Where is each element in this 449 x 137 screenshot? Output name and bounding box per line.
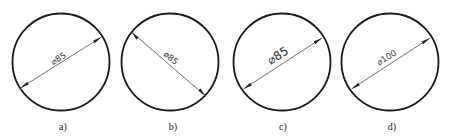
- diameter-dimension-line: [132, 32, 206, 96]
- arrowhead-icon: [352, 83, 360, 89]
- arrowhead-icon: [422, 38, 430, 44]
- figure-c: ⌀85 c): [234, 14, 331, 134]
- dimension-text: ⌀85: [162, 49, 181, 67]
- figure-b: ⌀85 b): [122, 14, 219, 134]
- arrowhead-icon: [21, 82, 29, 88]
- arrowhead-icon: [244, 83, 252, 89]
- dimension-text: ⌀85: [265, 44, 291, 68]
- circle-outline: [234, 14, 331, 111]
- diameter-dimension-diagram: ⌀85 a) ⌀85 b) ⌀85 c) ⌀100 d): [0, 0, 449, 137]
- figure-label: c): [279, 121, 287, 133]
- arrowhead-icon: [199, 88, 206, 96]
- dimension-text: ⌀100: [375, 48, 398, 68]
- figure-d: ⌀100 d): [342, 14, 439, 134]
- arrowhead-icon: [93, 37, 101, 43]
- arrowhead-icon: [132, 32, 139, 40]
- diameter-dimension-line: [352, 38, 431, 89]
- figure-a: ⌀85 a): [13, 14, 110, 134]
- figure-label: d): [388, 121, 396, 133]
- arrowhead-icon: [314, 38, 322, 44]
- figure-label: b): [169, 121, 177, 133]
- circle-outline: [342, 14, 439, 111]
- figure-label: a): [59, 121, 67, 133]
